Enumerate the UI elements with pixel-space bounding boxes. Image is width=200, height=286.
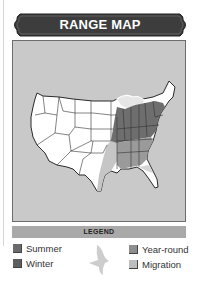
- legend-label: Winter: [26, 258, 53, 269]
- summer-swatch: [13, 244, 22, 253]
- title-banner: RANGE MAP: [12, 13, 188, 37]
- legend-item-summer: Summer: [13, 243, 62, 254]
- page-edge-line: [3, 0, 4, 246]
- legend-header: LEGEND: [12, 226, 186, 238]
- legend-item-year-round: Year-round: [129, 244, 189, 255]
- legend-item-winter: Winter: [13, 258, 53, 269]
- legend-item-migration: Migration: [129, 259, 181, 270]
- legend-label: Summer: [26, 243, 62, 254]
- us-map: [13, 41, 187, 223]
- range-map-panel: [12, 40, 186, 222]
- bird-silhouette-icon: [85, 243, 113, 281]
- winter-swatch: [13, 259, 22, 268]
- legend-label: Year-round: [142, 244, 189, 255]
- legend-label: Migration: [142, 259, 181, 270]
- page-title: RANGE MAP: [12, 13, 188, 37]
- migration-swatch: [129, 260, 138, 269]
- year-round-swatch: [129, 245, 138, 254]
